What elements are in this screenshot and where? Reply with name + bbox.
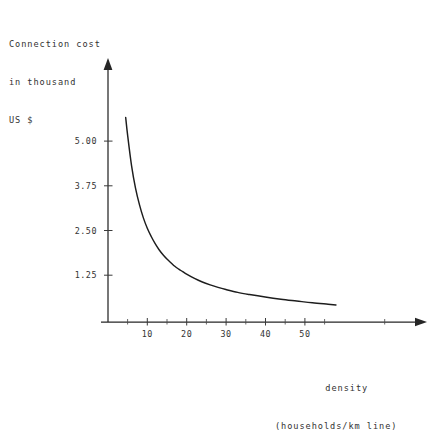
x-tick-label-4: 40 [260,329,271,339]
y-tick-label-4: 5.00 [75,136,97,146]
x-axis-label-line-1: density [296,382,397,395]
x-axis-label: density (households/km line) [296,357,397,434]
x-axis-label-line-2: (households/km line) [275,420,397,433]
x-tick-label-3: 30 [221,329,232,339]
y-tick-label-3: 3.75 [75,181,97,191]
y-tick-label-1: 1.25 [75,270,97,280]
data-curve [126,118,336,305]
x-axis-arrow-icon [415,318,427,326]
y-axis-arrow-icon [104,58,113,70]
x-tick-label-1: 10 [142,329,153,339]
y-axis-tick-labels: 1.25 2.50 3.75 5.00 [75,136,97,280]
x-axis-tick-labels: 10 20 30 40 50 [142,329,311,339]
y-tick-label-2: 2.50 [75,226,97,236]
x-tick-label-2: 20 [181,329,192,339]
x-tick-label-5: 50 [299,329,310,339]
